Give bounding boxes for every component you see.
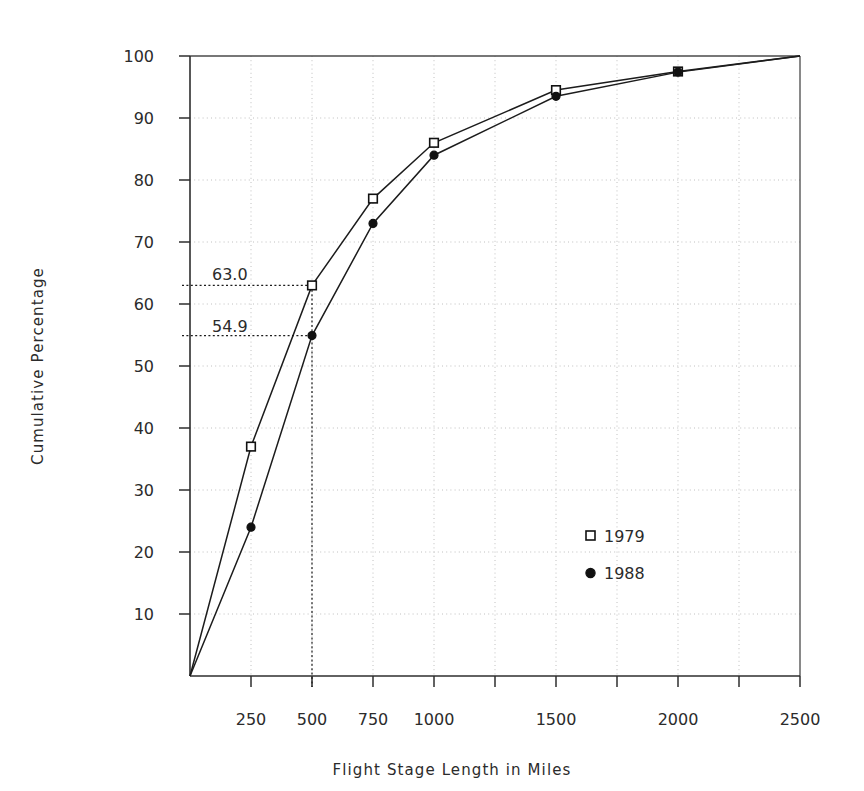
series-1979-markers	[247, 67, 683, 451]
legend-marker-open-square-icon	[586, 531, 595, 540]
x-tick-label: 250	[236, 710, 267, 729]
y-tick-label: 40	[134, 419, 154, 438]
y-tick-label: 10	[134, 605, 154, 624]
x-tick-label: 2000	[658, 710, 699, 729]
y-tick-label: 80	[134, 171, 154, 190]
data-point-marker-open-square	[247, 442, 256, 451]
x-tick-label: 500	[297, 710, 328, 729]
legend: 1979 1988	[586, 527, 645, 583]
x-tick-label: 1500	[536, 710, 577, 729]
x-tick-labels: 2505007501000150020002500	[236, 710, 821, 729]
y-tick-label: 30	[134, 481, 154, 500]
data-point-marker-filled-circle	[674, 68, 682, 76]
data-point-marker-filled-circle	[247, 523, 255, 531]
y-axis-title: Cumulative Percentage	[29, 267, 47, 465]
x-axis-title: Flight Stage Length in Miles	[333, 761, 572, 779]
legend-label-1988: 1988	[604, 564, 645, 583]
x-axis	[190, 676, 800, 687]
x-tick-label: 1000	[414, 710, 455, 729]
x-tick-label: 2500	[780, 710, 821, 729]
data-point-marker-open-square	[369, 194, 378, 203]
data-point-marker-filled-circle	[552, 92, 560, 100]
annotation-label-lower: 54.9	[212, 317, 248, 336]
legend-marker-filled-circle-icon	[586, 568, 595, 577]
y-tick-label: 50	[134, 357, 154, 376]
y-tick-label: 70	[134, 233, 154, 252]
annotation-leader-lines	[182, 285, 312, 687]
legend-label-1979: 1979	[604, 527, 645, 546]
x-tick-label: 750	[358, 710, 389, 729]
y-tick-label: 100	[123, 47, 154, 66]
data-point-marker-open-square	[430, 139, 439, 148]
y-tick-labels: 102030405060708090100	[123, 47, 154, 624]
chart-svg: 102030405060708090100 250500750100015002…	[0, 0, 864, 791]
data-point-marker-filled-circle	[308, 332, 316, 340]
data-point-marker-filled-circle	[430, 151, 438, 159]
y-tick-label: 90	[134, 109, 154, 128]
y-axis	[179, 56, 190, 676]
cumulative-percentage-line-chart: 102030405060708090100 250500750100015002…	[0, 0, 864, 791]
annotation-labels: 63.0 54.9	[212, 265, 248, 336]
y-tick-label: 20	[134, 543, 154, 562]
data-point-marker-filled-circle	[369, 219, 377, 227]
data-point-marker-open-square	[308, 281, 317, 290]
annotation-label-upper: 63.0	[212, 265, 248, 284]
y-tick-label: 60	[134, 295, 154, 314]
